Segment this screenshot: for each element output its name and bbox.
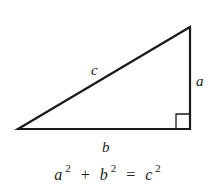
eq-b: b bbox=[100, 166, 108, 183]
eq-c: c bbox=[145, 166, 152, 183]
eq-a: a bbox=[54, 166, 62, 183]
eq-c-exp: 2 bbox=[155, 162, 161, 174]
eq-b-exp: 2 bbox=[111, 162, 117, 174]
label-b: b bbox=[102, 139, 110, 155]
eq-equals: = bbox=[126, 166, 135, 183]
triangle bbox=[18, 27, 190, 129]
pythagorean-equation: a2 + b2 = c2 bbox=[0, 164, 215, 184]
label-c: c bbox=[91, 62, 98, 78]
label-a: a bbox=[196, 73, 204, 89]
right-angle-marker bbox=[176, 114, 190, 129]
eq-a-exp: 2 bbox=[65, 162, 71, 174]
eq-plus: + bbox=[81, 166, 90, 183]
